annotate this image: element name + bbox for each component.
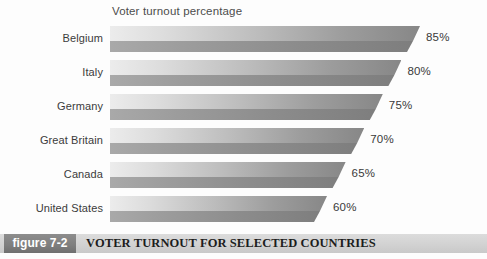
bar-row: Belgium85% <box>0 24 487 58</box>
bar-graphic <box>110 128 364 154</box>
bar-value-label: 60% <box>333 201 357 213</box>
figure-caption-text: VOTER TURNOUT FOR SELECTED COUNTRIES <box>86 234 376 253</box>
bar-value-label: 65% <box>352 167 376 179</box>
bar-value-label: 70% <box>370 133 394 145</box>
bar-row: United States60% <box>0 194 487 228</box>
bar-row: Canada65% <box>0 160 487 194</box>
bar-value-label: 80% <box>407 65 431 77</box>
bar-row: Italy80% <box>0 58 487 92</box>
bar-shadow-face <box>110 211 327 222</box>
bar-graphic <box>110 26 420 52</box>
bar-top-face <box>110 162 346 177</box>
chart-plot-area: Belgium85%Italy80%Germany75%Great Britai… <box>0 24 487 228</box>
bar-graphic <box>110 162 346 188</box>
figure-caption-band: figure 7-2 VOTER TURNOUT FOR SELECTED CO… <box>0 234 487 253</box>
bar-shadow-face <box>110 41 420 52</box>
chart-title: Voter turnout percentage <box>112 5 242 17</box>
bar-value-label: 75% <box>389 99 413 111</box>
bar-row: Great Britain70% <box>0 126 487 160</box>
bar-graphic <box>110 196 327 222</box>
bar-value-label: 85% <box>426 31 450 43</box>
bar-shadow-face <box>110 177 346 188</box>
bar-category-label: Italy <box>0 66 103 78</box>
bar-graphic <box>110 60 401 86</box>
bar-top-face <box>110 60 401 75</box>
bar-row: Germany75% <box>0 92 487 126</box>
figure-number-badge: figure 7-2 <box>4 234 76 253</box>
bar-category-label: Canada <box>0 168 103 180</box>
bar-category-label: Germany <box>0 100 103 112</box>
bar-shadow-face <box>110 75 401 86</box>
bar-top-face <box>110 94 383 109</box>
bar-graphic <box>110 94 383 120</box>
bar-category-label: United States <box>0 202 103 214</box>
figure-container: Voter turnout percentage Belgium85%Italy… <box>0 0 487 259</box>
bar-top-face <box>110 26 420 41</box>
bar-shadow-face <box>110 109 383 120</box>
bar-category-label: Great Britain <box>0 134 103 146</box>
bar-top-face <box>110 196 327 211</box>
bar-shadow-face <box>110 143 364 154</box>
bar-top-face <box>110 128 364 143</box>
bar-category-label: Belgium <box>0 32 103 44</box>
